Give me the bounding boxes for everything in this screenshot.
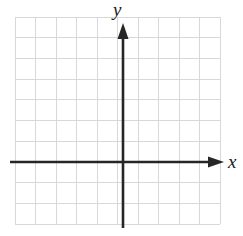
x-axis-label: x xyxy=(228,152,236,171)
coordinate-plane-canvas xyxy=(0,0,243,236)
grid-lines xyxy=(15,17,220,224)
coordinate-plane-figure: y x xyxy=(0,0,243,236)
y-axis-arrowhead-icon xyxy=(118,23,129,39)
x-axis-arrowhead-icon xyxy=(208,157,224,168)
y-axis xyxy=(118,23,129,228)
y-axis-label: y xyxy=(113,0,121,19)
